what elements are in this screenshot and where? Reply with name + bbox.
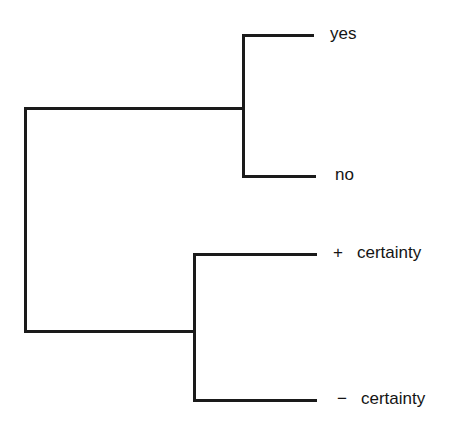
no-leaf-line [242, 175, 316, 178]
minus-certainty-leaf-line [193, 399, 317, 402]
upper-branch-vertical-line [242, 34, 245, 178]
plus-certainty-text: certainty [357, 243, 421, 262]
minus-certainty-text: certainty [361, 389, 425, 408]
minus-sign: − [337, 390, 361, 407]
yes-leaf-line [242, 34, 314, 37]
plus-certainty-leaf-line [193, 253, 317, 256]
lower-branch-vertical-line [193, 253, 196, 402]
lower-branch-connector [24, 330, 196, 333]
upper-branch-connector [24, 107, 245, 110]
root-vertical-line [24, 107, 27, 333]
no-label: no [335, 166, 354, 183]
plus-certainty-label: +certainty [333, 244, 421, 261]
tree-diagram: yes no +certainty −certainty [0, 0, 467, 423]
no-text: no [335, 165, 354, 184]
minus-certainty-label: −certainty [337, 390, 425, 407]
yes-text: yes [330, 24, 356, 43]
plus-sign: + [333, 244, 357, 261]
yes-label: yes [330, 25, 356, 42]
